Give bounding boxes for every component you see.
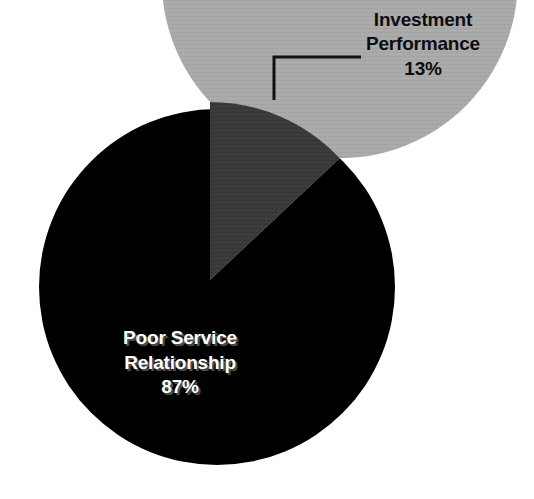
callout-line-2: Performance [328,32,518,56]
inner-line-2: Relationship [60,351,300,376]
callout-value: 13% [328,57,518,81]
inner-value: 87% [60,375,300,400]
slice-label-investment-performance: Investment Performance 13% [328,8,518,81]
slice-label-poor-service-relationship: Poor Service Relationship 87% [60,326,300,400]
pie-chart-figure: Investment Performance 13% Poor Service … [0,0,534,499]
inner-line-1: Poor Service [60,326,300,351]
callout-line-1: Investment [328,8,518,32]
